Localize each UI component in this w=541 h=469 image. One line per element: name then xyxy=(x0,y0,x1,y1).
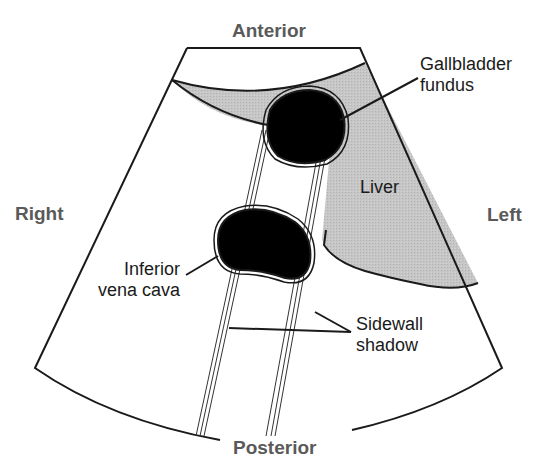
gallbladder-fundus xyxy=(267,90,344,163)
label-shadow-line1: Sidewall xyxy=(356,314,423,335)
label-sidewall-shadow: Sidewall shadow xyxy=(356,314,423,356)
label-anterior: Anterior xyxy=(232,20,306,42)
label-gallbladder-line1: Gallbladder xyxy=(420,54,512,75)
label-ivc: Inferior vena cava xyxy=(118,259,180,301)
label-ivc-line1: Inferior xyxy=(118,259,180,280)
inferior-vena-cava xyxy=(218,209,310,278)
label-ivc-line2: vena cava xyxy=(90,280,180,301)
label-gallbladder-fundus: Gallbladder fundus xyxy=(420,54,512,96)
leader-ivc xyxy=(186,256,218,275)
sector-outline-left xyxy=(35,48,220,440)
label-gallbladder-line2: fundus xyxy=(420,75,512,96)
label-right: Right xyxy=(15,203,64,225)
label-left: Left xyxy=(487,204,522,226)
sidewall-shadow-left xyxy=(196,130,270,436)
leader-shadow-right xyxy=(315,312,351,332)
label-shadow-line2: shadow xyxy=(356,335,423,356)
label-liver: Liver xyxy=(360,177,399,198)
label-posterior: Posterior xyxy=(233,437,316,459)
